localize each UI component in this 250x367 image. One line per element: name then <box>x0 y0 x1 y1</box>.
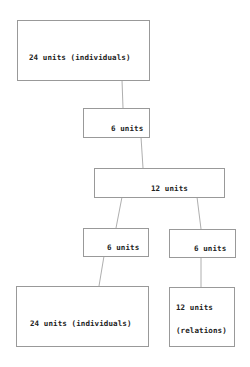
node-level2: 6 units <box>83 108 150 138</box>
node-label: 24 units (individuals) <box>30 319 132 328</box>
edge-left4-bottom-left <box>99 256 104 286</box>
edge-level2-level3 <box>141 137 143 168</box>
node-bottom-left: 24 units (individuals) <box>16 286 149 347</box>
edge-level3-left4 <box>116 197 122 228</box>
node-level3: 12 units <box>94 168 225 198</box>
node-right4: 6 units <box>169 229 236 258</box>
node-label: 6 units <box>194 244 226 253</box>
node-bottom-right: 12 units (relations) <box>169 287 235 347</box>
node-label: 24 units (individuals) <box>29 53 131 62</box>
edge-top-level2 <box>122 80 123 108</box>
edge-level3-right4 <box>197 197 201 229</box>
node-label-line2: (relations) <box>176 326 227 335</box>
node-label-line1: 12 units <box>176 303 213 312</box>
node-label: 6 units <box>111 124 143 133</box>
node-label: 12 units <box>151 184 188 193</box>
node-left4: 6 units <box>83 228 149 257</box>
node-label: 6 units <box>107 243 139 252</box>
node-top: 24 units (individuals) <box>17 20 150 81</box>
